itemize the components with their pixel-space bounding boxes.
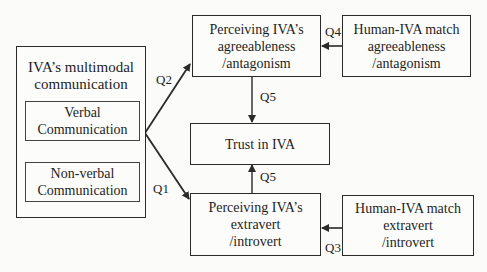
- node-perceived-agreeableness: Perceiving IVA’s agreeableness /antagoni…: [192, 15, 321, 77]
- node-text: /antagonism: [222, 55, 290, 72]
- node-text: Trust in IVA: [225, 136, 295, 153]
- edge-label-q2: Q2: [156, 73, 172, 87]
- node-text: Communication: [37, 121, 127, 138]
- node-text: Human-IVA match: [355, 200, 461, 217]
- edge-label-q1: Q1: [153, 182, 169, 196]
- node-text: extravert: [383, 217, 433, 234]
- node-text: /introvert: [382, 234, 434, 251]
- node-verbal-communication: Verbal Communication: [25, 101, 140, 141]
- node-match-extravert: Human-IVA match extravert /introvert: [342, 195, 474, 256]
- node-text: /antagonism: [372, 55, 440, 72]
- node-text: Human-IVA match: [354, 21, 460, 38]
- node-text: /introvert: [229, 233, 281, 250]
- node-text: Perceiving IVA’s: [209, 21, 303, 38]
- edge-label-q5-bottom: Q5: [260, 170, 276, 184]
- node-title: IVA’s multimodal: [28, 59, 134, 76]
- node-text: agreeableness: [218, 38, 296, 55]
- node-nonverbal-communication: Non-verbal Communication: [25, 162, 140, 202]
- edge-label-q3: Q3: [325, 241, 341, 255]
- edge-label-q5-top: Q5: [260, 90, 276, 104]
- node-perceived-extravert: Perceiving IVA’s extravert /introvert: [190, 193, 321, 256]
- node-text: Perceiving IVA’s: [208, 199, 302, 216]
- node-text: Non-verbal: [51, 165, 115, 182]
- node-match-agreeableness: Human-IVA match agreeableness /antagonis…: [342, 15, 471, 77]
- node-trust-in-iva: Trust in IVA: [190, 123, 330, 165]
- edge-label-q4: Q4: [325, 25, 341, 39]
- node-text: Verbal: [64, 104, 101, 121]
- node-text: extravert: [231, 216, 281, 233]
- node-title: communication: [34, 76, 127, 93]
- node-text: agreeableness: [368, 38, 446, 55]
- node-text: Communication: [37, 182, 127, 199]
